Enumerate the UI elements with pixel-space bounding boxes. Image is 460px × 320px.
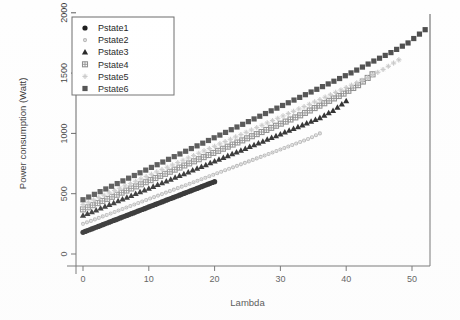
x-tick-label: 10 xyxy=(144,274,154,284)
data-point xyxy=(359,78,364,83)
data-point xyxy=(383,53,388,58)
data-point xyxy=(288,117,293,122)
data-point xyxy=(220,170,223,173)
data-point xyxy=(85,221,88,224)
data-point xyxy=(201,155,206,160)
data-point xyxy=(149,197,152,200)
data-point xyxy=(176,187,179,190)
data-point xyxy=(375,70,380,75)
data-point xyxy=(143,180,148,185)
data-point xyxy=(124,188,129,193)
data-point xyxy=(303,139,306,142)
data-point xyxy=(417,32,422,37)
data-point xyxy=(228,167,231,170)
data-point xyxy=(275,149,278,152)
data-point xyxy=(133,203,136,206)
data-point xyxy=(137,170,142,175)
data-point xyxy=(105,196,110,201)
data-point xyxy=(225,144,230,149)
data-point xyxy=(240,138,245,143)
data-point xyxy=(322,101,327,106)
data-point xyxy=(170,162,175,167)
data-point xyxy=(206,138,211,143)
data-point xyxy=(278,121,283,126)
data-point xyxy=(189,146,194,151)
data-point xyxy=(168,190,171,193)
data-point xyxy=(155,162,160,167)
data-point xyxy=(280,113,285,118)
legend-label: Pstate5 xyxy=(98,72,129,82)
data-point xyxy=(344,85,349,90)
data-point xyxy=(211,150,216,155)
y-tick-label: 2000 xyxy=(59,3,69,23)
legend-label: Pstate2 xyxy=(98,35,129,45)
data-point xyxy=(166,157,171,162)
data-point xyxy=(333,90,338,95)
data-point xyxy=(128,181,133,186)
data-point xyxy=(125,206,128,209)
data-point xyxy=(275,116,280,121)
data-point xyxy=(354,67,359,72)
data-point xyxy=(348,70,353,75)
data-point xyxy=(298,113,303,118)
data-point xyxy=(177,165,182,170)
data-point xyxy=(349,83,354,88)
data-point xyxy=(307,102,312,107)
data-point xyxy=(212,135,217,140)
data-point xyxy=(121,207,124,210)
data-point xyxy=(307,138,310,141)
y-tick-label: 1000 xyxy=(59,123,69,143)
data-point xyxy=(172,167,177,172)
x-axis-title: Lambda xyxy=(230,297,265,308)
x-tick-label: 30 xyxy=(275,274,285,284)
data-point xyxy=(216,148,221,153)
legend-marker-filled-circle-icon xyxy=(82,25,87,30)
data-point xyxy=(264,127,269,132)
data-point xyxy=(291,97,296,102)
data-point xyxy=(232,166,235,169)
data-point xyxy=(318,132,321,135)
data-point xyxy=(303,92,308,97)
data-point xyxy=(163,171,168,176)
data-point xyxy=(103,186,108,191)
data-point xyxy=(228,137,233,142)
data-point xyxy=(177,151,182,156)
data-point xyxy=(243,161,246,164)
data-point xyxy=(297,95,302,100)
data-point xyxy=(259,130,264,135)
data-point xyxy=(81,207,86,212)
data-point xyxy=(317,103,322,108)
data-point xyxy=(194,143,199,148)
data-point xyxy=(247,160,250,163)
data-point xyxy=(164,191,167,194)
data-point xyxy=(192,181,195,184)
data-point xyxy=(109,184,114,189)
data-point xyxy=(326,81,331,86)
data-point xyxy=(172,188,175,191)
data-point xyxy=(143,168,148,173)
data-point xyxy=(109,194,114,199)
data-point xyxy=(279,148,282,151)
data-point xyxy=(411,36,416,41)
data-point xyxy=(301,104,306,109)
data-point xyxy=(144,174,149,179)
legend-label: Pstate4 xyxy=(98,60,129,70)
data-point xyxy=(180,158,185,163)
data-point xyxy=(239,163,242,166)
data-point xyxy=(217,132,222,137)
chart-container: 010203040500500100015002000LambdaPower c… xyxy=(0,0,460,320)
scatter-plot: 010203040500500100015002000LambdaPower c… xyxy=(0,0,460,320)
data-point xyxy=(360,64,365,69)
data-point xyxy=(269,125,274,130)
data-point xyxy=(154,169,159,174)
data-point xyxy=(212,144,217,149)
data-point xyxy=(296,106,301,111)
data-point xyxy=(263,111,268,116)
legend-marker-small-dot-icon xyxy=(84,39,87,42)
data-point xyxy=(377,56,382,61)
data-point xyxy=(269,108,274,113)
data-point xyxy=(134,184,139,189)
legend-label: Pstate3 xyxy=(98,47,129,57)
data-point xyxy=(188,182,191,185)
data-point xyxy=(234,124,239,129)
